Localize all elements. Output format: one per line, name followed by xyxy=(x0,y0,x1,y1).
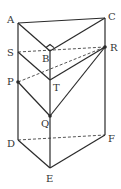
label-t: T xyxy=(53,82,60,93)
edge-pq xyxy=(18,82,50,116)
edge-sr xyxy=(18,47,105,52)
right-angle-mark xyxy=(46,45,54,48)
label-b: B xyxy=(42,53,49,64)
label-d: D xyxy=(7,138,15,149)
point-p xyxy=(16,80,20,84)
label-r: R xyxy=(110,42,118,53)
label-s: S xyxy=(7,47,14,58)
label-e: E xyxy=(46,173,53,184)
label-c: C xyxy=(108,11,116,22)
edge-bc xyxy=(50,18,105,51)
edge-pr xyxy=(18,47,105,82)
label-a: A xyxy=(6,14,15,25)
label-f: F xyxy=(108,133,115,144)
edge-df xyxy=(18,135,105,140)
edge-ab xyxy=(18,23,50,51)
point-r xyxy=(103,45,107,49)
edge-de xyxy=(18,140,50,168)
label-q: Q xyxy=(41,118,49,129)
edge-tr xyxy=(50,47,105,80)
edge-ac xyxy=(18,18,105,23)
edge-ef xyxy=(50,135,105,168)
prism-diagram: A C B S R P T Q D F E xyxy=(0,0,121,189)
label-p: P xyxy=(7,76,14,87)
